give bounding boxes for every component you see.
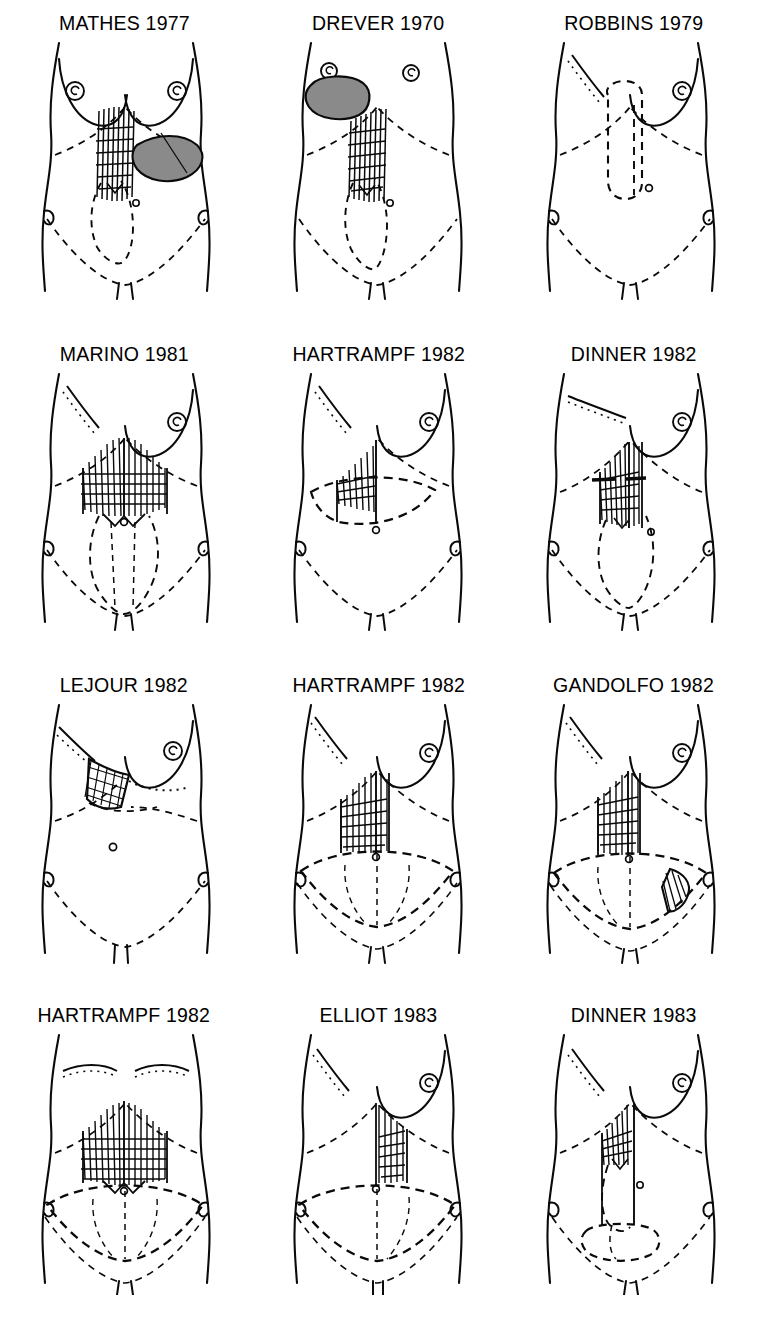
panel-artwork [0,695,252,993]
panel-artwork [505,33,757,331]
mastectomy-scar [568,55,604,103]
panel-artwork [505,695,757,993]
panel-label: DINNER 1982 [571,343,697,364]
cross-hatch-flap [85,759,129,809]
donor-ellipse [598,516,653,608]
panel-marino-1981: MARINO 1981 [0,331,252,662]
panel-hartrampf-1982-b: HARTRAMPF 1982 [252,662,504,993]
figure-plate: MATHES 1977 [0,0,757,1323]
flap-hatching [337,440,376,524]
panel-dinner-1983: DINNER 1983 [505,992,757,1323]
mastectomy-scar [311,717,347,765]
panel-label: HARTRAMPF 1982 [292,343,465,364]
flap-hatching [602,1103,634,1225]
transverse-donor-ellipse [47,1186,203,1262]
mastectomy-scar [63,386,99,434]
mastectomy-scar [566,717,602,765]
panel-lejour-1982: LEJOUR 1982 [0,662,252,993]
panel-artwork [252,364,504,662]
hatched-triangle-patch [662,869,689,911]
panel-label: ELLIOT 1983 [320,1004,438,1025]
flap-hatching [341,771,389,853]
panel-label: HARTRAMPF 1982 [38,1004,211,1025]
panel-label: DREVER 1970 [312,12,444,33]
panel-label: ROBBINS 1979 [564,12,703,33]
mastectomy-scar [313,1049,349,1097]
low-transverse-paddle [581,1224,659,1261]
panel-label: MARINO 1981 [60,343,189,364]
panel-dinner-1982: DINNER 1982 [505,331,757,662]
mastectomy-scar [568,1049,604,1097]
panel-hartrampf-1982-c: HARTRAMPF 1982 [0,992,252,1323]
flap-hatching [348,109,386,202]
shaded-skin-island [133,133,203,181]
panel-artwork [252,33,504,331]
flap-hatching [600,442,642,528]
panel-label: HARTRAMPF 1982 [292,674,465,695]
mastectomy-scar [568,396,626,424]
flap-hatching [81,1101,167,1193]
panel-artwork [0,1025,252,1323]
panel-label: GANDOLFO 1982 [553,674,714,695]
mastectomy-scar [63,1065,189,1077]
panel-label: DINNER 1983 [571,1004,697,1025]
panel-artwork [505,1025,757,1323]
transverse-donor-ellipse [299,1186,455,1262]
panel-robbins-1979: ROBBINS 1979 [505,0,757,331]
panel-artwork [505,364,757,662]
panel-mathes-1977: MATHES 1977 [0,0,252,331]
flap-hatching [376,1103,407,1185]
shaded-skin-island [306,76,370,119]
flap-hatching [81,438,167,526]
panel-label: MATHES 1977 [59,12,190,33]
panel-drever-1970: DREVER 1970 [252,0,504,331]
flap-outline [607,81,642,199]
panel-grid: MATHES 1977 [0,0,757,1323]
panel-hartrampf-1982-a: HARTRAMPF 1982 [252,331,504,662]
mastectomy-scar [315,386,351,434]
panel-elliot-1983: ELLIOT 1983 [252,992,504,1323]
panel-artwork [252,695,504,993]
panel-artwork [0,364,252,662]
panel-gandolfo-1982: GANDOLFO 1982 [505,662,757,993]
donor-vertical-outline [602,1165,630,1231]
panel-artwork [252,1025,504,1323]
panel-label: LEJOUR 1982 [60,674,188,695]
transverse-bars [592,478,646,480]
panel-artwork [0,33,252,331]
donor-ellipse [90,516,158,614]
